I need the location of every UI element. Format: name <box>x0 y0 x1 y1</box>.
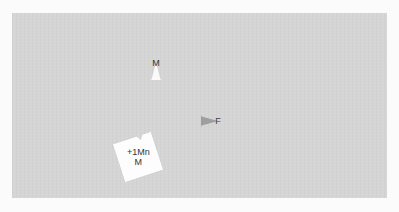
token-m[interactable]: M <box>139 46 173 80</box>
token-m-label: M <box>152 58 160 68</box>
game-board[interactable]: M F +1Mn M <box>12 13 387 198</box>
card-line-2: M <box>127 157 150 167</box>
card-line-1: +1Mn <box>127 147 150 157</box>
bonus-card[interactable]: +1Mn M <box>113 132 163 182</box>
token-f[interactable]: F <box>201 104 235 138</box>
token-f-label: F <box>215 116 221 126</box>
